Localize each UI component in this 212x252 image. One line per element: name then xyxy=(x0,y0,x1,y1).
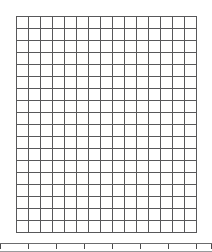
pixel-cell-petal_yellow[interactable] xyxy=(161,197,173,209)
pixel-cell-seed_tan[interactable] xyxy=(113,101,125,113)
pixel-cell-seed_dark_brown[interactable] xyxy=(77,77,89,89)
pixel-cell-petal_yellow[interactable] xyxy=(77,65,89,77)
pixel-cell-white[interactable] xyxy=(161,17,173,29)
pixel-cell-seed_tan[interactable] xyxy=(113,149,125,161)
pixel-cell-petal_yellow[interactable] xyxy=(101,53,113,65)
pixel-cell-white[interactable] xyxy=(101,221,113,233)
pixel-cell-petal_yellow[interactable] xyxy=(161,173,173,185)
pixel-cell-seed_tan[interactable] xyxy=(113,125,125,137)
pixel-cell-petal_yellow[interactable] xyxy=(89,53,101,65)
pixel-cell-white[interactable] xyxy=(29,65,41,77)
pixel-cell-white[interactable] xyxy=(41,197,53,209)
pixel-cell-seed_dark_brown[interactable] xyxy=(101,149,113,161)
pixel-cell-white[interactable] xyxy=(137,221,149,233)
pixel-cell-white[interactable] xyxy=(185,29,197,41)
pixel-cell-white[interactable] xyxy=(185,65,197,77)
pixel-cell-petal_yellow[interactable] xyxy=(125,41,137,53)
pixel-cell-petal_yellow[interactable] xyxy=(77,185,89,197)
pixel-cell-white[interactable] xyxy=(173,41,185,53)
pixel-cell-white[interactable] xyxy=(161,221,173,233)
pixel-cell-white[interactable] xyxy=(137,197,149,209)
pixel-cell-white[interactable] xyxy=(173,185,185,197)
pixel-cell-petal_yellow[interactable] xyxy=(125,53,137,65)
pixel-cell-petal_yellow[interactable] xyxy=(161,53,173,65)
pixel-cell-petal_yellow[interactable] xyxy=(53,53,65,65)
pixel-cell-seed_dark_brown[interactable] xyxy=(125,125,137,137)
pixel-cell-seed_dark_brown[interactable] xyxy=(101,173,113,185)
pixel-grid[interactable] xyxy=(16,16,197,233)
pixel-cell-white[interactable] xyxy=(29,29,41,41)
pixel-cell-petal_yellow[interactable] xyxy=(161,161,173,173)
pixel-cell-seed_tan[interactable] xyxy=(137,101,149,113)
pixel-cell-petal_yellow[interactable] xyxy=(161,101,173,113)
pixel-cell-seed_dark_brown[interactable] xyxy=(149,113,161,125)
pixel-cell-seed_dark_brown[interactable] xyxy=(101,113,113,125)
pixel-cell-white[interactable] xyxy=(17,197,29,209)
pixel-cell-white[interactable] xyxy=(65,221,77,233)
pixel-cell-seed_dark_brown[interactable] xyxy=(113,137,125,149)
pixel-cell-seed_tan[interactable] xyxy=(137,77,149,89)
pixel-cell-white[interactable] xyxy=(41,185,53,197)
pixel-cell-seed_tan[interactable] xyxy=(89,113,101,125)
pixel-cell-white[interactable] xyxy=(29,209,41,221)
pixel-cell-seed_tan[interactable] xyxy=(89,77,101,89)
pixel-cell-white[interactable] xyxy=(125,221,137,233)
pixel-cell-petal_yellow[interactable] xyxy=(53,65,65,77)
pixel-cell-petal_yellow[interactable] xyxy=(53,185,65,197)
pixel-cell-white[interactable] xyxy=(17,53,29,65)
pixel-cell-white[interactable] xyxy=(173,53,185,65)
pixel-cell-petal_yellow[interactable] xyxy=(89,185,101,197)
pixel-cell-white[interactable] xyxy=(113,221,125,233)
pixel-cell-petal_yellow[interactable] xyxy=(53,149,65,161)
pixel-cell-petal_yellow[interactable] xyxy=(125,185,137,197)
pixel-cell-white[interactable] xyxy=(149,209,161,221)
pixel-cell-petal_yellow[interactable] xyxy=(41,101,53,113)
pixel-cell-petal_yellow[interactable] xyxy=(125,29,137,41)
pixel-cell-seed_tan[interactable] xyxy=(101,137,113,149)
pixel-cell-petal_yellow[interactable] xyxy=(65,53,77,65)
pixel-cell-white[interactable] xyxy=(17,29,29,41)
pixel-cell-white[interactable] xyxy=(137,173,149,185)
pixel-cell-white[interactable] xyxy=(101,197,113,209)
pixel-cell-petal_yellow[interactable] xyxy=(29,113,41,125)
pixel-cell-petal_yellow[interactable] xyxy=(53,77,65,89)
pixel-cell-seed_dark_brown[interactable] xyxy=(65,137,77,149)
pixel-cell-seed_dark_brown[interactable] xyxy=(125,173,137,185)
pixel-cell-petal_yellow[interactable] xyxy=(65,77,77,89)
pixel-cell-white[interactable] xyxy=(185,209,197,221)
pixel-cell-white[interactable] xyxy=(29,197,41,209)
pixel-cell-petal_yellow[interactable] xyxy=(17,101,29,113)
pixel-cell-white[interactable] xyxy=(173,29,185,41)
pixel-cell-seed_tan[interactable] xyxy=(137,113,149,125)
pixel-cell-petal_yellow[interactable] xyxy=(89,197,101,209)
pixel-cell-white[interactable] xyxy=(41,209,53,221)
pixel-cell-petal_yellow[interactable] xyxy=(161,137,173,149)
pixel-cell-seed_tan[interactable] xyxy=(65,149,77,161)
pixel-cell-white[interactable] xyxy=(41,53,53,65)
pixel-cell-petal_yellow[interactable] xyxy=(173,65,185,77)
pixel-cell-petal_yellow[interactable] xyxy=(173,137,185,149)
pixel-cell-petal_yellow[interactable] xyxy=(29,149,41,161)
pixel-cell-seed_dark_brown[interactable] xyxy=(77,161,89,173)
pixel-cell-white[interactable] xyxy=(185,173,197,185)
pixel-cell-seed_tan[interactable] xyxy=(125,65,137,77)
pixel-cell-petal_yellow[interactable] xyxy=(77,41,89,53)
pixel-cell-white[interactable] xyxy=(17,41,29,53)
pixel-cell-petal_yellow[interactable] xyxy=(101,41,113,53)
pixel-cell-petal_yellow[interactable] xyxy=(149,185,161,197)
pixel-cell-seed_tan[interactable] xyxy=(65,113,77,125)
pixel-cell-seed_tan[interactable] xyxy=(101,65,113,77)
pixel-cell-petal_yellow[interactable] xyxy=(77,197,89,209)
pixel-cell-white[interactable] xyxy=(65,209,77,221)
pixel-cell-seed_tan[interactable] xyxy=(113,173,125,185)
pixel-cell-petal_yellow[interactable] xyxy=(161,89,173,101)
pixel-cell-petal_yellow[interactable] xyxy=(173,77,185,89)
pixel-cell-white[interactable] xyxy=(125,209,137,221)
pixel-cell-seed_tan[interactable] xyxy=(65,101,77,113)
pixel-cell-white[interactable] xyxy=(185,77,197,89)
pixel-cell-seed_tan[interactable] xyxy=(89,161,101,173)
pixel-cell-petal_yellow[interactable] xyxy=(101,29,113,41)
pixel-cell-petal_yellow[interactable] xyxy=(65,185,77,197)
pixel-cell-petal_yellow[interactable] xyxy=(53,125,65,137)
pixel-cell-seed_dark_brown[interactable] xyxy=(53,113,65,125)
